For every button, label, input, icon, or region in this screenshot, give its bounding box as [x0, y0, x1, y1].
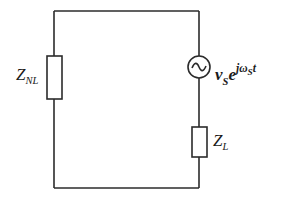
- load-impedance-box: [192, 127, 207, 157]
- label-base: e: [228, 65, 236, 84]
- label-main: v: [215, 65, 223, 84]
- label-subscript: L: [222, 141, 228, 152]
- label-exponent: jωSt: [236, 62, 256, 75]
- exponent-tail: t: [253, 62, 256, 75]
- nonlinear-impedance-label: ZNL: [16, 66, 38, 87]
- load-impedance-label: ZL: [213, 132, 228, 153]
- source-label: vSejωSt: [215, 63, 256, 88]
- label-subscript: NL: [25, 75, 38, 86]
- circuit-diagram: [0, 0, 289, 202]
- ac-source-icon: [188, 56, 210, 78]
- exponent-main: jω: [236, 62, 248, 75]
- nonlinear-impedance-box: [47, 56, 62, 99]
